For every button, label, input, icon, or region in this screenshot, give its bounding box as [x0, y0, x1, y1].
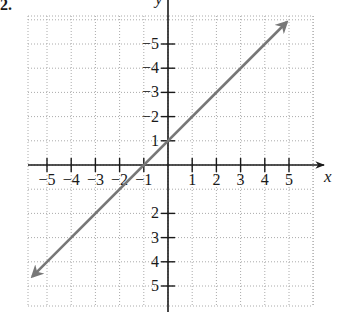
y-tick-label: −4: [142, 59, 159, 76]
y-tick-label: −3: [142, 83, 159, 100]
y-tick-label: −2: [142, 108, 159, 125]
y-tick-label: 2: [151, 204, 159, 221]
y-tick-label: 1: [151, 132, 159, 149]
x-tick-label: 3: [237, 171, 245, 188]
y-axis-label: y: [153, 0, 163, 8]
x-tick-label: 2: [212, 171, 220, 188]
axes: [28, 0, 324, 312]
x-tick-label: −4: [63, 171, 80, 188]
line-y-equals-x-plus-1: [32, 22, 286, 276]
x-axis-label: x: [323, 167, 332, 186]
x-tick-label: 1: [188, 171, 196, 188]
coordinate-plane: 2. −5−4−3−2−11234554321−2−3−4−5xy: [0, 0, 344, 320]
x-tick-label: 5: [285, 171, 293, 188]
y-tick-label: 4: [151, 253, 159, 270]
x-tick-label: −3: [87, 171, 104, 188]
problem-number-label: 2.: [0, 0, 12, 13]
x-tick-label: −5: [38, 171, 55, 188]
plotted-line: [32, 22, 286, 276]
y-tick-label: 3: [151, 229, 159, 246]
x-tick-label: −1: [135, 171, 152, 188]
x-tick-label: −2: [111, 171, 128, 188]
x-tick-label: 4: [261, 171, 269, 188]
y-tick-label: 5: [151, 277, 159, 294]
y-tick-label: −5: [142, 35, 159, 52]
